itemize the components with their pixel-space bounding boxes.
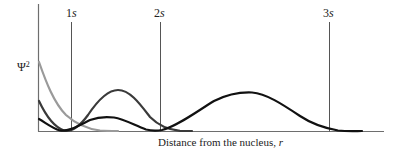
orbital-probability-chart: 1s 2s 3s Ψ2 Distance from the nucleus, r bbox=[0, 0, 403, 158]
curve-3s bbox=[39, 92, 362, 131]
y-axis-label: Ψ2 bbox=[17, 60, 30, 74]
marker-label-2s: 2s bbox=[154, 6, 165, 20]
marker-label-3s: 3s bbox=[323, 6, 334, 20]
x-axis-label: Distance from the nucleus, r bbox=[158, 136, 284, 148]
marker-label-1s: 1s bbox=[66, 6, 77, 20]
